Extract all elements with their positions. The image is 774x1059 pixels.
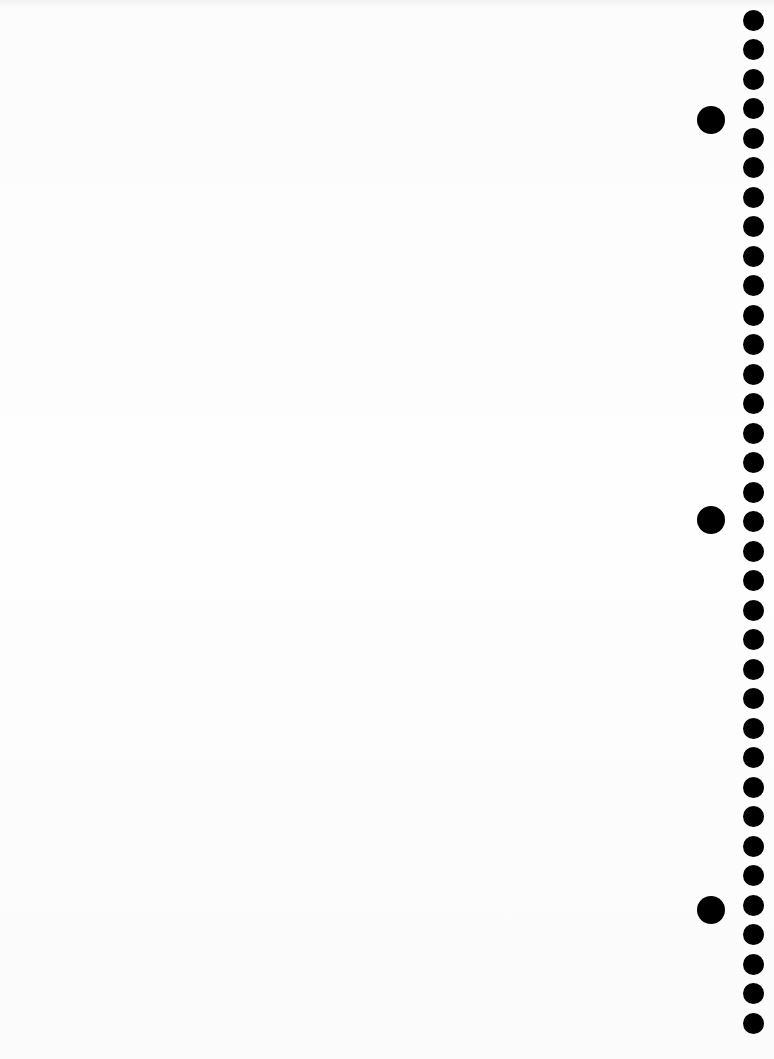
blank-sheet — [0, 0, 774, 1059]
punch-hole-small — [743, 541, 764, 562]
punch-hole-small — [743, 747, 764, 768]
punch-hole-small — [743, 98, 764, 119]
punch-hole-small — [743, 629, 764, 650]
scan-edge-shadow — [0, 0, 774, 8]
punch-hole-small — [743, 128, 764, 149]
punch-hole-small — [743, 10, 764, 31]
punch-hole-small — [743, 452, 764, 473]
punch-hole-small — [743, 806, 764, 827]
punch-hole-small — [743, 423, 764, 444]
punch-hole-small — [743, 246, 764, 267]
punch-hole-large — [697, 106, 725, 134]
punch-hole-small — [743, 570, 764, 591]
punch-hole-small — [743, 954, 764, 975]
punch-hole-small — [743, 393, 764, 414]
punch-hole-small — [743, 836, 764, 857]
punch-hole-small — [743, 777, 764, 798]
punch-hole-small — [743, 865, 764, 886]
punch-hole-small — [743, 895, 764, 916]
punch-hole-small — [743, 1013, 764, 1034]
punch-hole-small — [743, 924, 764, 945]
punch-hole-large — [697, 896, 725, 924]
punch-hole-small — [743, 275, 764, 296]
punch-hole-small — [743, 39, 764, 60]
punch-hole-small — [743, 305, 764, 326]
punch-hole-small — [743, 187, 764, 208]
punch-hole-small — [743, 334, 764, 355]
punch-hole-small — [743, 216, 764, 237]
punch-hole-small — [743, 511, 764, 532]
punch-hole-small — [743, 482, 764, 503]
punch-hole-small — [743, 157, 764, 178]
punch-hole-small — [743, 688, 764, 709]
punch-hole-small — [743, 600, 764, 621]
punch-hole-small — [743, 718, 764, 739]
punch-hole-small — [743, 364, 764, 385]
faint-bleed-through-area — [100, 190, 660, 490]
punch-hole-small — [743, 659, 764, 680]
punch-hole-small — [743, 983, 764, 1004]
punch-hole-small — [743, 69, 764, 90]
punch-hole-large — [697, 506, 725, 534]
